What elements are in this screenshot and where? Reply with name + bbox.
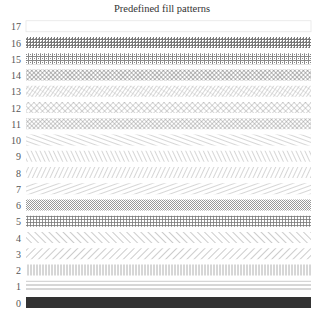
pattern-bar-diagonal-up-shallow xyxy=(26,183,311,194)
pattern-bar-diagonal-up-45 xyxy=(26,248,311,259)
pattern-bar-diagonal-down-shallow xyxy=(26,135,311,146)
pattern-bar-diagonal-down-steep xyxy=(26,151,311,162)
pattern-bar-orthogonal-grid xyxy=(26,216,311,227)
pattern-bar-crosshatch-dense xyxy=(26,118,311,129)
pattern-bar-brick-grid xyxy=(26,53,311,64)
pattern-bar-diagonal-down-45 xyxy=(26,232,311,243)
pattern-bar-horizontal-lines xyxy=(26,281,311,292)
pattern-bar-vertical-lines xyxy=(26,265,311,276)
pattern-bar-crosshatch-fine-up xyxy=(26,86,311,97)
pattern-bar-diagonal-up-steep xyxy=(26,167,311,178)
pattern-bar-diamond-crosshatch xyxy=(26,70,311,81)
pattern-bar-dense-grid-dots xyxy=(26,37,311,48)
pattern-bar-solid xyxy=(26,297,311,308)
pattern-bar-empty xyxy=(26,21,311,32)
pattern-bars xyxy=(0,0,324,322)
pattern-bar-fine-checker xyxy=(26,200,311,211)
pattern-bar-crosshatch-45 xyxy=(26,102,311,113)
